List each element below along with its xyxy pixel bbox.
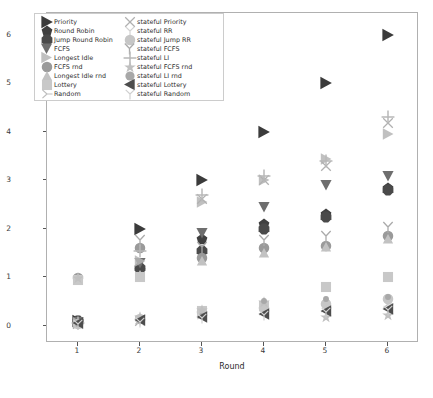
scatter-point [323,296,329,302]
scatter-point [72,315,84,327]
scatter-point [134,256,147,269]
legend-item-label: FCFS [54,45,70,53]
legend-item[interactable]: stateful LI [122,53,219,62]
scatter-point [320,152,333,165]
scatter-point [382,182,394,194]
x-tick-label: 1 [57,346,97,355]
scatter-point [382,220,395,233]
scatter-point [134,313,146,325]
x-tick-mark [325,342,326,346]
x-tick-mark [387,342,388,346]
x-tick-mark [201,342,202,346]
scatter-point [134,314,147,327]
y-tick-label: 0 [0,321,11,330]
legend-marker-icon [122,89,137,98]
scatter-point [382,184,394,196]
scatter-point [382,295,394,307]
scatter-point [196,306,208,318]
scatter-point [72,316,85,329]
scatter-point [72,272,84,284]
scatter-point [320,311,332,323]
legend-item-label: stateful FCFS [137,45,179,53]
scatter-point [71,316,85,330]
legend-column-2: stateful Prioritystateful RRstateful Jum… [122,17,219,97]
scatter-point [258,218,270,230]
scatter-point [382,233,394,245]
legend-item[interactable]: stateful Lottery [122,80,219,89]
scatter-point [382,293,394,305]
scatter-point [320,160,332,172]
legend-item-label: stateful LI rnd [137,72,182,80]
scatter-point [258,247,270,259]
legend-item[interactable]: stateful FCFS [122,44,219,53]
legend-item-label: Lottery [54,81,77,89]
legend-item[interactable]: Random [39,89,122,98]
scatter-point [381,28,395,42]
scatter-point [196,245,208,257]
legend-box: PriorityRound RobinJump Round RobinFCFSL… [34,13,224,101]
scatter-point [382,117,394,129]
legend-item[interactable]: stateful Random [122,89,219,98]
y-tick-label: 1 [0,272,11,281]
legend-item-label: stateful Jump RR [137,36,191,44]
scatter-point [72,318,84,330]
scatter-point [385,294,391,300]
legend-item-label: Round Robin [54,27,95,35]
scatter-point [258,307,271,320]
legend-item[interactable]: stateful RR [122,26,219,35]
legend-item-label: Jump Round Robin [54,36,113,44]
scatter-point [196,308,208,320]
legend-item-label: Longest Idle rnd [54,72,106,80]
x-tick-label: 4 [243,346,283,355]
scatter-point [137,318,143,324]
legend-item-label: stateful Lottery [137,81,187,89]
scatter-point [134,264,146,276]
legend-item[interactable]: stateful Jump RR [122,35,219,44]
scatter-point [72,272,84,284]
scatter-point [320,208,332,220]
scatter-point [199,313,205,319]
scatter-point [134,315,146,327]
scatter-point [196,252,208,264]
scatter-point [196,241,209,254]
scatter-point [134,233,147,246]
scatter-point [382,230,394,242]
scatter-point [75,321,81,327]
legend-item[interactable]: stateful LI rnd [122,71,219,80]
y-tick-label: 6 [0,29,11,38]
scatter-point [319,154,333,168]
y-tick-label: 4 [0,126,11,135]
y-tick-label: 3 [0,175,11,184]
figure-canvas: Max Leakage (bits) Round 0123456 123456 … [0,0,433,398]
legend-item[interactable]: stateful FCFS rnd [122,62,219,71]
y-tick-label: 5 [0,78,11,87]
scatter-point [258,300,270,312]
x-tick-label: 3 [181,346,221,355]
legend-column-1: PriorityRound RobinJump Round RobinFCFSL… [39,17,122,97]
legend-item-label: Priority [54,18,77,26]
scatter-point [134,269,146,281]
legend-item-label: stateful RR [137,27,173,35]
scatter-point [72,318,84,330]
scatter-point [382,304,394,316]
x-axis-label: Round [219,362,244,371]
scatter-point [195,173,209,187]
x-tick-mark [139,342,140,346]
scatter-point [196,255,208,267]
scatter-point [257,125,271,139]
scatter-point [196,312,208,324]
legend-item-label: stateful LI [137,54,169,62]
scatter-point [258,174,271,187]
scatter-point [71,314,85,328]
legend-item-label: stateful Priority [137,18,187,26]
scatter-point [258,223,270,235]
scatter-point [134,262,146,274]
scatter-point [195,188,209,202]
scatter-point [258,303,270,315]
legend-item[interactable]: stateful Priority [122,17,219,26]
scatter-point [320,230,333,243]
scatter-point [134,314,146,326]
scatter-point [258,233,271,246]
scatter-point [72,317,85,330]
x-tick-mark [263,342,264,346]
